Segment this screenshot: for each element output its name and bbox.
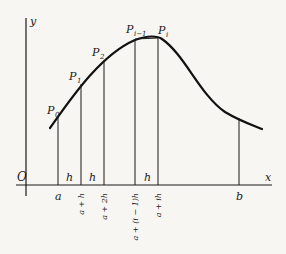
strip-width-label-3: h bbox=[144, 171, 151, 184]
label-pi: P i bbox=[157, 24, 168, 39]
y-axis-label: y bbox=[29, 15, 37, 28]
label-p1: P 1 bbox=[68, 70, 81, 85]
svg-text:i: i bbox=[166, 31, 168, 39]
strip-width-label-1: h bbox=[66, 171, 73, 184]
svg-text:2: 2 bbox=[99, 53, 105, 61]
svg-text:i−1: i−1 bbox=[134, 30, 147, 38]
tick-label-a-plus-ih: a + ih bbox=[154, 193, 163, 217]
x-axis-label: x bbox=[265, 171, 272, 184]
svg-text:0: 0 bbox=[55, 111, 60, 119]
svg-text:1: 1 bbox=[77, 77, 81, 85]
trapezoidal-rule-diagram: O x y P 0 P 1 P 2 P i−1 P i h h h a a + … bbox=[0, 0, 286, 254]
origin-label: O bbox=[17, 170, 27, 184]
strip-width-label-2: h bbox=[89, 171, 96, 184]
label-pi-minus-1: P i−1 bbox=[125, 23, 147, 38]
svg-text:P: P bbox=[91, 46, 100, 59]
svg-text:P: P bbox=[68, 70, 77, 83]
tick-label-a-plus-i-minus-1-h: a + (i − 1)h bbox=[131, 193, 140, 240]
tick-label-a: a bbox=[55, 190, 62, 203]
svg-text:P: P bbox=[46, 104, 55, 117]
label-p0: P 0 bbox=[46, 104, 60, 119]
tick-label-b: b bbox=[236, 190, 243, 203]
svg-text:P: P bbox=[125, 23, 134, 36]
svg-text:P: P bbox=[157, 24, 166, 37]
label-p2: P 2 bbox=[91, 46, 105, 61]
function-curve bbox=[50, 37, 262, 130]
tick-label-a-plus-2h: a + 2h bbox=[100, 193, 109, 220]
tick-label-a-plus-h: a + h bbox=[77, 193, 86, 215]
